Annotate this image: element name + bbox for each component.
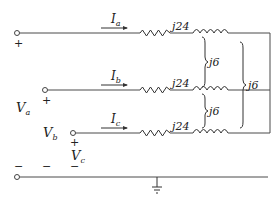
terminal-b (43, 88, 48, 93)
voltage-label-b: Vb (43, 125, 58, 142)
brace-icon-ab (202, 37, 208, 87)
inductor-c (193, 130, 228, 134)
inductor-b (193, 87, 228, 91)
plus-sign-a: + (14, 37, 23, 50)
impedance-label-b: j24 (169, 77, 189, 90)
inductor-a (193, 30, 228, 34)
minus-sign-b: − (42, 160, 51, 173)
voltage-label-a: Va (16, 100, 30, 117)
circuit-diagram: Ia Ib Ic j24 j24 j24 j6 j6 j6 + + + − − … (0, 0, 280, 207)
terminal-a (15, 31, 20, 36)
brace-icon-ac (240, 42, 246, 128)
current-label-b: Ib (110, 69, 121, 85)
brace-icon-bc (202, 94, 208, 128)
impedance-label-a: j24 (169, 20, 189, 33)
current-label-c: Ic (110, 112, 121, 128)
plus-sign-b: + (42, 94, 51, 107)
ground-icon (152, 177, 162, 193)
arrow-icon-b (101, 83, 128, 87)
resistor-c (140, 130, 170, 136)
minus-sign-a: − (14, 160, 23, 173)
terminal-c (71, 131, 76, 136)
terminal-neutral (15, 175, 20, 180)
resistor-a (140, 30, 170, 36)
circuit-svg: Ia Ib Ic j24 j24 j24 j6 j6 j6 + + + − − … (0, 0, 280, 207)
arrow-icon-c (101, 126, 128, 130)
arrow-icon-a (101, 26, 128, 30)
resistor-b (140, 87, 170, 93)
impedance-label-c: j24 (169, 120, 189, 133)
current-label-a: Ia (110, 12, 121, 28)
voltage-label-c: Vc (71, 148, 85, 165)
